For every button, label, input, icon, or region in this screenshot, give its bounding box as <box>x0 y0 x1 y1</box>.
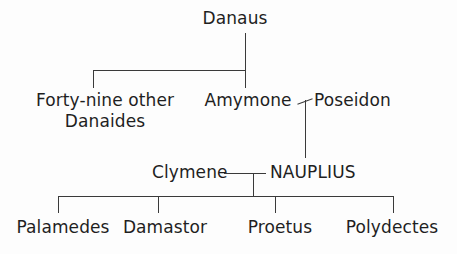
node-clymene: Clymene <box>152 162 228 183</box>
connector-stub-palamedes <box>58 196 59 213</box>
node-danaus-label: Danaus <box>203 8 268 28</box>
node-poseidon-label: Poseidon <box>314 90 391 110</box>
node-palamedes-label: Palamedes <box>16 217 109 237</box>
node-danaides-label-line1: Forty-nine other <box>10 90 200 111</box>
connector-stub-amymone <box>245 70 246 88</box>
node-polydectes: Polydectes <box>346 217 438 238</box>
node-nauplius: NAUPLIUS <box>270 162 356 183</box>
node-clymene-label: Clymene <box>152 162 228 182</box>
node-damastor: Damastor <box>123 217 207 238</box>
node-proetus-label: Proetus <box>248 217 312 237</box>
node-palamedes: Palamedes <box>16 217 109 238</box>
family-tree-diagram: Danaus Forty-nine other Danaides Amymone… <box>0 0 457 254</box>
node-damastor-label: Damastor <box>123 217 207 237</box>
node-danaus: Danaus <box>203 8 268 29</box>
node-danaides-label-line2: Danaides <box>10 111 200 132</box>
node-danaides: Forty-nine other Danaides <box>10 90 200 132</box>
connector-nauplius-children-down <box>253 173 254 196</box>
node-proetus: Proetus <box>248 217 312 238</box>
connector-danaus-down <box>245 33 246 70</box>
connector-stub-proetus <box>275 196 276 213</box>
node-poseidon: Poseidon <box>314 90 391 111</box>
connector-stub-damastor <box>158 196 159 213</box>
connector-amymone-poseidon-to-nauplius <box>305 100 306 158</box>
connector-stub-polydectes <box>393 196 394 213</box>
node-polydectes-label: Polydectes <box>346 217 438 237</box>
node-amymone-label: Amymone <box>204 90 291 110</box>
node-nauplius-label: NAUPLIUS <box>270 162 356 182</box>
connector-children-rail <box>58 196 393 197</box>
connector-marriage-clymene-nauplius <box>224 173 266 174</box>
connector-danaus-children-rail <box>93 70 246 71</box>
node-amymone: Amymone <box>204 90 291 111</box>
connector-stub-danaides <box>93 70 94 88</box>
